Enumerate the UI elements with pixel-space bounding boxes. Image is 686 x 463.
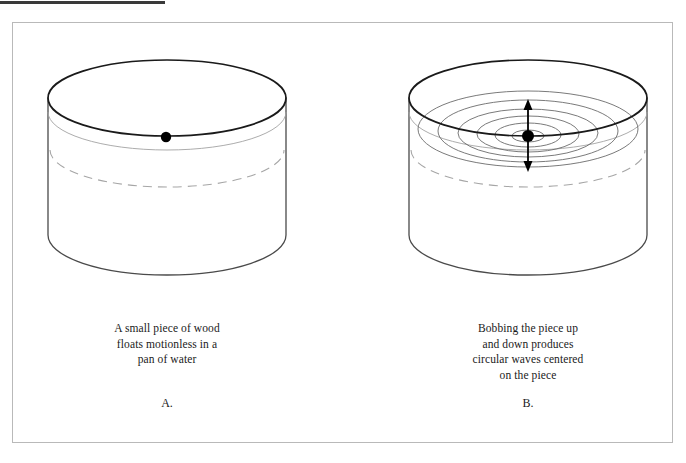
- caption-b-line-1: Bobbing the piece up: [428, 321, 628, 337]
- caption-b-line-2: and down produces: [428, 337, 628, 353]
- caption-b-line-4: on the piece: [428, 368, 628, 384]
- diagram-page: A small piece of wood floats motionless …: [0, 0, 686, 463]
- caption-a-line-1: A small piece of wood: [67, 321, 267, 337]
- figure-b-group: [409, 60, 647, 275]
- caption-a-line-3: pan of water: [67, 352, 267, 368]
- figure-a-label: A.: [147, 396, 187, 411]
- caption-b-line-3: circular waves centered: [428, 352, 628, 368]
- caption-a-line-2: floats motionless in a: [67, 337, 267, 353]
- figures-canvas: [0, 0, 686, 463]
- figure-a-caption: A small piece of wood floats motionless …: [67, 321, 267, 368]
- wood-piece-dot-b: [522, 130, 534, 142]
- figure-b-label: B.: [508, 396, 548, 411]
- figure-a-group: [48, 60, 286, 275]
- figure-b-caption: Bobbing the piece up and down produces c…: [428, 321, 628, 383]
- wood-piece-dot-a: [161, 132, 171, 142]
